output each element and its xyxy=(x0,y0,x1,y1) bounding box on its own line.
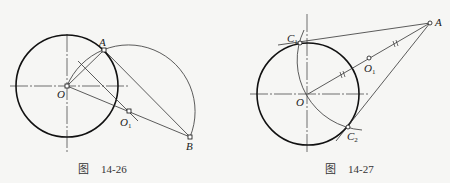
label-O: O xyxy=(57,88,65,100)
figure-14-27: A O O1 C1 C2 图14-27 xyxy=(250,14,442,175)
label-O: O xyxy=(296,96,304,108)
point-A xyxy=(102,48,106,52)
point-B xyxy=(188,135,192,139)
tangent-AC2 xyxy=(336,23,430,141)
caption-14-27: 图14-27 xyxy=(325,163,374,175)
label-O1: O1 xyxy=(364,62,376,76)
tick-mark-2 xyxy=(343,71,345,77)
diagram-canvas: A O O1 B 图14-26 A O O1 C1 C2 xyxy=(0,0,450,183)
caption-14-26: 图14-26 xyxy=(78,163,127,175)
point-C1 xyxy=(298,41,302,45)
figure-14-26: A O O1 B 图14-26 xyxy=(10,34,195,175)
label-C2: C2 xyxy=(347,130,358,144)
label-A: A xyxy=(98,36,106,48)
point-C2 xyxy=(346,125,350,129)
line-OA xyxy=(67,50,104,86)
label-O1: O1 xyxy=(120,116,132,130)
point-O xyxy=(65,84,69,88)
label-B: B xyxy=(186,140,193,152)
label-C1: C1 xyxy=(287,32,298,46)
label-A: A xyxy=(434,16,442,28)
point-O1 xyxy=(127,109,131,113)
point-A xyxy=(428,21,432,25)
point-O1 xyxy=(367,56,371,60)
